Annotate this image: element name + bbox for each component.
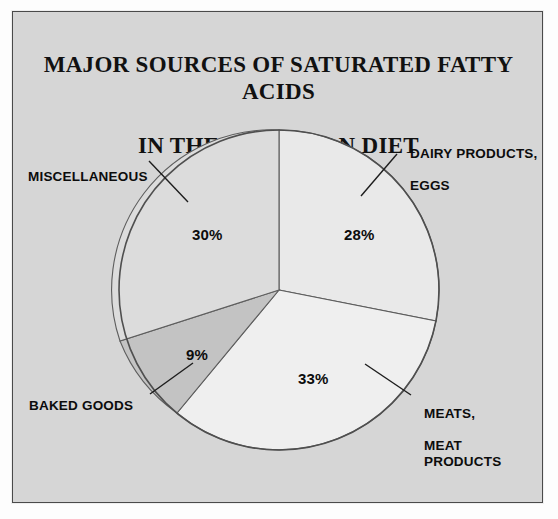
- slice-label-miscellaneous: MISCELLANEOUS: [28, 153, 148, 201]
- chart-page: MAJOR SOURCES OF SATURATED FATTY ACIDS I…: [0, 0, 558, 519]
- slice-value-dairy: 28%: [344, 226, 375, 243]
- slice-value-baked-goods: 9%: [186, 346, 208, 363]
- slice-value-miscellaneous: 30%: [192, 226, 223, 243]
- slice-label-dairy-line-2: EGGS: [410, 178, 538, 194]
- slice-label-dairy-line-1: DAIRY PRODUCTS,: [410, 146, 538, 162]
- slice-label-meats-line-1: MEATS,: [424, 406, 542, 422]
- slice-label-miscellaneous-line-1: MISCELLANEOUS: [28, 169, 148, 185]
- slice-label-dairy: DAIRY PRODUCTS, EGGS: [410, 130, 538, 210]
- slice-label-baked-goods-line-1: BAKED GOODS: [29, 398, 133, 414]
- chart-panel: MAJOR SOURCES OF SATURATED FATTY ACIDS I…: [12, 11, 543, 503]
- slice-label-meats: MEATS, MEAT PRODUCTS: [424, 390, 542, 486]
- slice-value-meats: 33%: [298, 370, 329, 387]
- slice-label-meats-line-2: MEAT PRODUCTS: [424, 438, 542, 470]
- slice-label-baked-goods: BAKED GOODS: [29, 382, 133, 430]
